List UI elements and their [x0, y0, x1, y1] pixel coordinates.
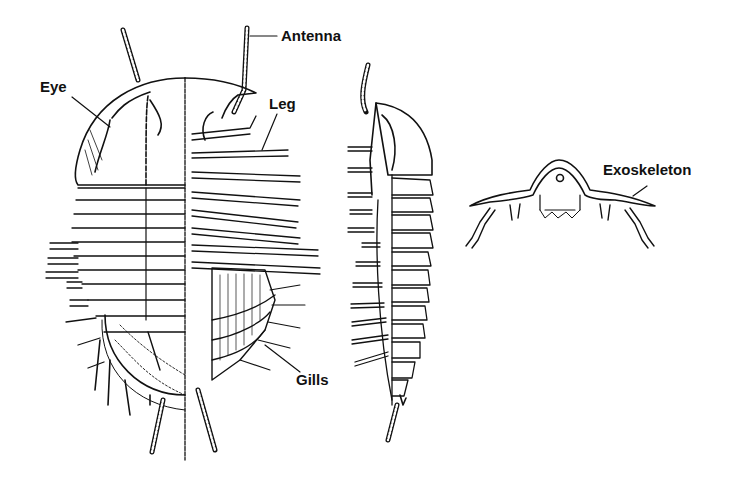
label-eye: Eye [40, 79, 67, 94]
gut-section [557, 175, 564, 182]
trilobite-diagram [0, 0, 739, 481]
side-cephalon [376, 103, 432, 175]
gills-leader [265, 345, 300, 372]
leg-leader [262, 114, 277, 150]
label-antenna: Antenna [281, 28, 341, 43]
side-view-trilobite [348, 65, 433, 440]
legs-right [192, 116, 320, 274]
side-tail [388, 395, 406, 440]
top-view-trilobite [46, 28, 320, 460]
label-gills: Gills [296, 372, 329, 387]
eye-structure [95, 92, 150, 172]
side-antenna [363, 65, 368, 112]
cephalon [75, 78, 185, 185]
label-exoskeleton: Exoskeleton [603, 162, 691, 177]
gills [212, 268, 305, 380]
label-leg: Leg [269, 96, 296, 111]
side-segments [377, 175, 433, 405]
eye-leader [72, 97, 110, 127]
thorax-segments-left [72, 188, 185, 370]
exoskeleton-leader [633, 186, 647, 196]
legs-left [46, 243, 104, 368]
pygidium [105, 315, 185, 395]
antenna-left [123, 30, 138, 80]
antenna-right [234, 28, 247, 112]
cross-section-legs [466, 204, 654, 248]
cerci [152, 390, 215, 452]
